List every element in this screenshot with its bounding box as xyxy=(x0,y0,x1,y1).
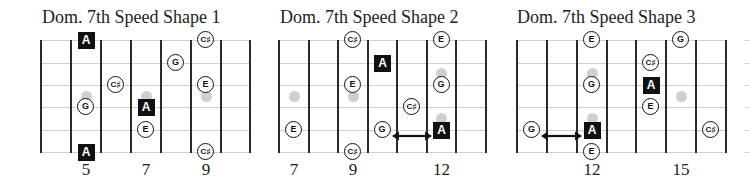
fret-marker-dot xyxy=(676,91,687,102)
diagram-title: Dom. 7th Speed Shape 1 xyxy=(42,7,220,28)
note-circle: E xyxy=(137,121,154,138)
note-circle: E xyxy=(583,143,600,160)
fret-number-label: 12 xyxy=(433,160,450,180)
note-circle: G xyxy=(77,98,94,115)
note-circle: G xyxy=(583,76,600,93)
root-note-box: A xyxy=(138,99,155,116)
fret-line xyxy=(278,40,280,153)
fret-number-label: 5 xyxy=(82,160,91,180)
fret-line xyxy=(485,40,487,153)
fret-line xyxy=(249,40,251,153)
fret-line xyxy=(455,40,457,153)
note-circle: C♯ xyxy=(403,98,420,115)
note-circle: E xyxy=(197,76,214,93)
note-circle: C♯ xyxy=(344,143,361,160)
fret-line xyxy=(695,40,697,153)
fret-line xyxy=(367,40,369,153)
fret-line xyxy=(635,40,637,153)
fret-line xyxy=(665,40,667,153)
fret-number-label: 15 xyxy=(673,160,690,180)
note-circle: E xyxy=(344,76,361,93)
fret-line xyxy=(308,40,310,153)
note-circle: E xyxy=(583,31,600,48)
fret-number-label: 7 xyxy=(142,160,151,180)
fret-marker-dot xyxy=(289,91,300,102)
note-circle: E xyxy=(433,31,450,48)
root-note-box: A xyxy=(374,55,391,72)
note-circle: G xyxy=(167,54,184,71)
double-arrow-icon xyxy=(392,130,432,142)
note-circle: G xyxy=(523,121,540,138)
fret-line xyxy=(606,40,608,153)
fret-line xyxy=(190,40,192,153)
edge-tick xyxy=(744,85,750,86)
note-circle: E xyxy=(642,98,659,115)
edge-tick xyxy=(744,107,750,108)
diagram-title: Dom. 7th Speed Shape 3 xyxy=(517,7,695,28)
note-circle: C♯ xyxy=(702,121,719,138)
note-circle: C♯ xyxy=(197,31,214,48)
note-circle: C♯ xyxy=(197,143,214,160)
fret-line xyxy=(725,40,727,153)
root-note-box: A xyxy=(584,122,601,139)
root-note-box: A xyxy=(643,77,660,94)
fret-line xyxy=(70,40,72,153)
note-circle: G xyxy=(672,31,689,48)
edge-tick xyxy=(744,152,750,153)
root-note-box: A xyxy=(78,144,95,161)
note-circle: C♯ xyxy=(107,76,124,93)
note-circle: G xyxy=(374,121,391,138)
double-arrow-icon xyxy=(541,130,582,142)
note-circle: G xyxy=(433,76,450,93)
root-note-box: A xyxy=(433,122,450,139)
fret-line xyxy=(100,40,102,153)
fret-line xyxy=(160,40,162,153)
edge-tick xyxy=(744,130,750,131)
note-circle: C♯ xyxy=(642,54,659,71)
edge-tick xyxy=(744,63,750,64)
edge-tick xyxy=(744,40,750,41)
fret-number-label: 9 xyxy=(202,160,211,180)
note-circle: C♯ xyxy=(344,31,361,48)
fret-number-label: 7 xyxy=(290,160,299,180)
fret-number-label: 12 xyxy=(584,160,601,180)
note-circle: E xyxy=(285,121,302,138)
fret-line xyxy=(337,40,339,153)
fret-number-label: 9 xyxy=(349,160,358,180)
diagram-title: Dom. 7th Speed Shape 2 xyxy=(280,7,458,28)
fret-line xyxy=(130,40,132,153)
root-note-box: A xyxy=(78,32,95,49)
fret-line xyxy=(516,40,518,153)
fret-line xyxy=(40,40,42,153)
fret-line xyxy=(220,40,222,153)
